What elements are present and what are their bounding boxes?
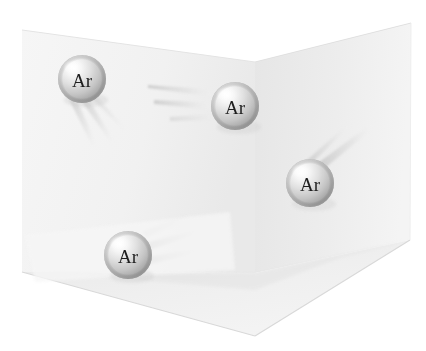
paper-grain-overlay xyxy=(0,0,426,351)
argon-box-illustration: Ar Ar Ar xyxy=(0,0,426,351)
figure-canvas: Ar Ar Ar xyxy=(0,0,426,351)
